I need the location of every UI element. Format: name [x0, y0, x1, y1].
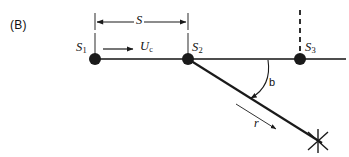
point-label-s3: S3: [305, 41, 316, 55]
cross-mark-icon: [308, 129, 328, 153]
point-label-s3-subscript: 3: [311, 45, 316, 55]
point-label-s2: S2: [192, 41, 203, 55]
point-label-s1: S1: [76, 41, 87, 55]
figure-drawing-canvas: [0, 0, 349, 157]
point-label-s1-subscript: 1: [82, 45, 87, 55]
dimension-label-s: S: [134, 14, 144, 27]
velocity-label-symbol: U: [140, 39, 149, 53]
angle-label-b: b: [269, 77, 275, 88]
panel-label: (B): [10, 19, 27, 31]
oblique-ray: [188, 59, 322, 143]
source-point-s1: [89, 53, 101, 65]
velocity-label: Uc: [140, 40, 153, 54]
velocity-label-subscript: c: [149, 45, 153, 54]
point-label-s2-subscript: 2: [198, 45, 203, 55]
figure-panel-b: (B) S Uc S1 S2 S3 b r: [0, 0, 349, 157]
ray-label-r: r: [254, 117, 259, 129]
dimension-label-s-text: S: [136, 13, 142, 27]
angle-arc-b: [251, 60, 269, 98]
